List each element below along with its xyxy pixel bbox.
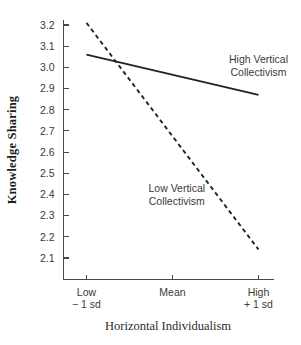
series-label-2: Collectivism (149, 195, 205, 207)
series-annotations: High VerticalCollectivismLow VerticalCol… (148, 53, 287, 207)
y-tick-label: 3.2 (40, 19, 55, 31)
x-tick-label: High (248, 286, 270, 298)
y-tick-label: 2.6 (40, 146, 55, 158)
y-axis-title: Knowledge Sharing (5, 95, 19, 204)
y-tick-label: 2.5 (40, 167, 55, 179)
y-tick-label: 2.8 (40, 104, 55, 116)
x-tick-sublabel: − 1 sd (72, 298, 101, 310)
x-axis-title: Horizontal Individualism (105, 319, 231, 333)
y-tick-label: 2.9 (40, 82, 55, 94)
series-label-1: Collectivism (230, 66, 286, 78)
x-tick-label: Mean (159, 286, 185, 298)
series-label-2: Low Vertical (148, 182, 205, 194)
y-tick-label: 2.1 (40, 252, 55, 264)
y-tick-label: 2.4 (40, 188, 55, 200)
y-tick-label: 3.1 (40, 40, 55, 52)
y-tick-label: 2.3 (40, 209, 55, 221)
y-tick-label: 2.2 (40, 231, 55, 243)
x-tick-label: Low (77, 286, 97, 298)
y-tick-label: 3.0 (40, 61, 55, 73)
series-label-1: High Vertical (229, 53, 288, 65)
x-tick-sublabel: + 1 sd (244, 298, 273, 310)
interaction-plot: 3.23.13.02.92.82.72.62.52.42.32.22.1 Low… (0, 0, 301, 345)
figure-container: 3.23.13.02.92.82.72.62.52.42.32.22.1 Low… (0, 0, 301, 345)
y-tick-label: 2.7 (40, 125, 55, 137)
y-axis-ticks: 3.23.13.02.92.82.72.62.52.42.32.22.1 (40, 19, 69, 264)
